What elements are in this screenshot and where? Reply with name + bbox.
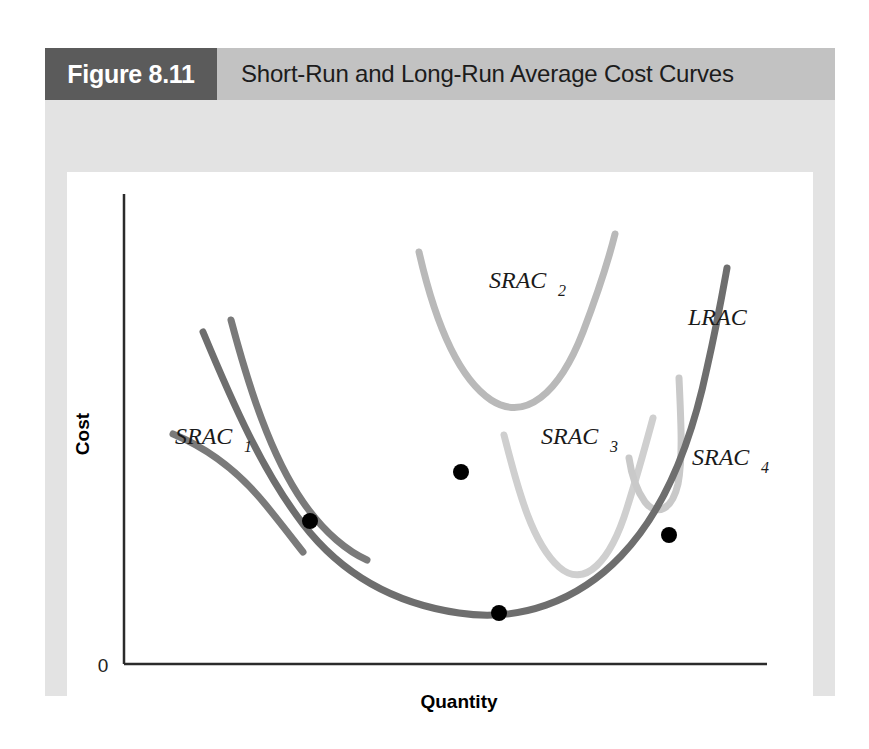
tangency-dot-srac4 xyxy=(661,527,677,543)
label-srac1-text: SRAC xyxy=(175,423,233,449)
label-lrac-text: LRAC xyxy=(687,304,748,330)
curve-srac4 xyxy=(629,378,681,510)
origin-label: 0 xyxy=(98,655,109,676)
label-srac2-text: SRAC xyxy=(489,267,547,293)
figure-number-label: Figure 8.11 xyxy=(67,60,194,89)
label-srac2: SRAC 2 xyxy=(489,267,566,299)
figure-number-box: Figure 8.11 xyxy=(45,48,217,100)
label-srac3-text: SRAC xyxy=(541,423,599,449)
label-srac4-subscript: 4 xyxy=(761,459,769,476)
tangency-dot-srac1 xyxy=(302,513,318,529)
y-axis-label: Cost xyxy=(72,412,93,455)
label-srac2-subscript: 2 xyxy=(558,282,566,299)
figure-header-band: Figure 8.11 Short-Run and Long-Run Avera… xyxy=(45,48,835,100)
label-srac4-text: SRAC xyxy=(692,444,750,470)
label-srac4: SRAC 4 xyxy=(692,444,769,476)
figure-panel-body: 0 Cost Quantity xyxy=(45,100,835,696)
plot-canvas: 0 Cost Quantity xyxy=(67,172,813,724)
curve-srac2 xyxy=(419,234,615,407)
figure-title: Short-Run and Long-Run Average Cost Curv… xyxy=(241,48,734,100)
label-srac1: SRAC 1 xyxy=(175,423,252,455)
label-srac3-subscript: 3 xyxy=(609,438,618,455)
tangency-dot-srac2 xyxy=(453,464,469,480)
figure-container: Figure 8.11 Short-Run and Long-Run Avera… xyxy=(45,48,835,696)
tangency-dot-srac3 xyxy=(491,605,507,621)
label-srac1-subscript: 1 xyxy=(244,438,252,455)
label-srac3: SRAC 3 xyxy=(541,423,618,455)
cost-curves-chart: 0 Cost Quantity xyxy=(67,172,813,724)
x-axis-label: Quantity xyxy=(420,691,497,712)
label-lrac: LRAC xyxy=(687,304,748,330)
